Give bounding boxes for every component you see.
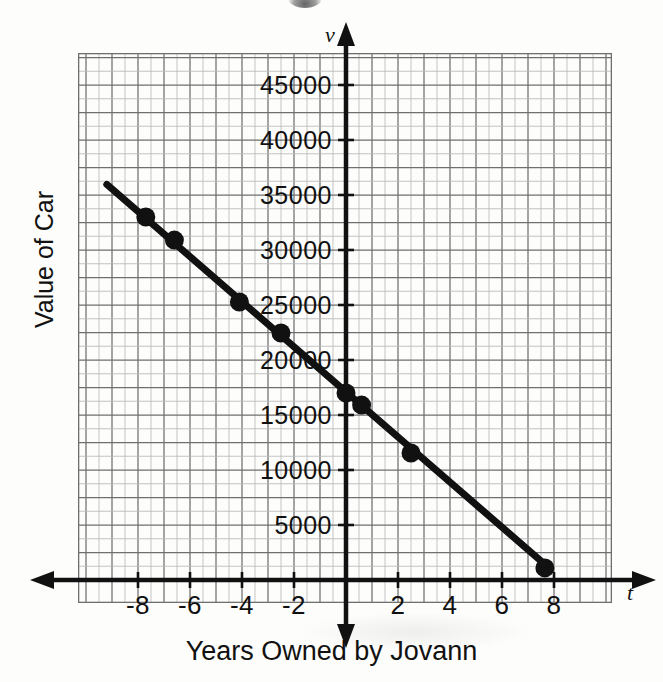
x-tick-label: -2 [282, 590, 306, 621]
x-tick-label: 8 [547, 590, 562, 621]
y-axis-arrow-up [337, 22, 355, 46]
y-tick-label: 45000 [260, 71, 332, 100]
y-tick-label: 40000 [260, 126, 332, 155]
y-axis-title: Value of Car [30, 145, 59, 375]
y-tick-label: 15000 [260, 401, 332, 430]
x-axis-arrow-left [30, 571, 54, 589]
graph-page: 5000100001500020000250003000035000400004… [0, 0, 663, 682]
axes-layer [0, 0, 663, 682]
y-tick-label: 25000 [260, 291, 332, 320]
t-axis-variable-label: t [627, 580, 633, 606]
x-axis-arrow-right [632, 571, 656, 589]
y-tick-label: 35000 [260, 181, 332, 210]
x-tick-label: -6 [178, 590, 202, 621]
x-tick-label: -4 [230, 590, 254, 621]
x-tick-label: -8 [126, 590, 150, 621]
y-tick-label: 30000 [260, 236, 332, 265]
x-axis-title: Years Owned by Jovann [0, 636, 663, 667]
x-tick-label: 6 [495, 590, 510, 621]
y-tick-label: 5000 [274, 511, 332, 540]
y-tick-label: 10000 [260, 456, 332, 485]
x-tick-label: 2 [391, 590, 406, 621]
v-axis-variable-label: v [325, 22, 335, 48]
x-tick-label: 4 [443, 590, 458, 621]
y-tick-label: 20000 [260, 346, 332, 375]
